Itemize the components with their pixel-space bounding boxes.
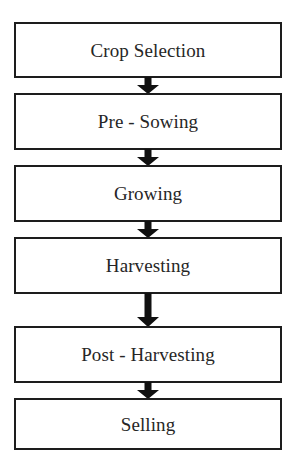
flowchart-node-growing: Growing — [14, 165, 282, 222]
down-arrow-icon — [134, 293, 162, 327]
flowchart-node-pre-sowing: Pre - Sowing — [14, 93, 282, 150]
flowchart-node-label: Pre - Sowing — [98, 112, 198, 131]
flowchart-node-harvesting: Harvesting — [14, 237, 282, 294]
down-arrow-icon — [134, 221, 162, 238]
flowchart-node-label: Crop Selection — [91, 41, 206, 60]
down-arrow-icon — [134, 149, 162, 166]
flowchart-diagram: Crop Selection Pre - Sowing Growing Harv… — [0, 0, 303, 467]
flowchart-node-selling: Selling — [14, 398, 282, 450]
down-arrow-icon — [134, 77, 162, 94]
flowchart-node-label: Post - Harvesting — [81, 345, 215, 364]
flowchart-node-crop-selection: Crop Selection — [14, 22, 282, 78]
down-arrow-icon — [134, 382, 162, 399]
flowchart-node-label: Growing — [114, 184, 182, 203]
flowchart-node-post-harvesting: Post - Harvesting — [14, 326, 282, 383]
flowchart-node-label: Selling — [121, 415, 176, 434]
flowchart-node-label: Harvesting — [106, 256, 190, 275]
